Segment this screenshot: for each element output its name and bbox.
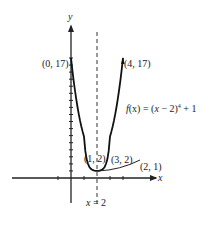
- point-label-0-17: (0, 17): [42, 58, 69, 70]
- function-graph: y x (0, 17) (4, 17) (1, 2) (3, 2) (2, 1)…: [0, 0, 210, 231]
- function-label: f(x) = (x − 2)4 + 1: [126, 103, 197, 115]
- point-label-2-1: (2, 1): [140, 161, 162, 173]
- dashed-line-label: x = 2: [85, 197, 106, 208]
- point-label-3-2: (3, 2): [111, 154, 133, 166]
- x-axis-label: x: [157, 172, 163, 183]
- point-label-1-2: (1, 2): [84, 153, 106, 165]
- y-axis-label: y: [67, 11, 73, 22]
- point-label-4-17: (4, 17): [124, 58, 151, 70]
